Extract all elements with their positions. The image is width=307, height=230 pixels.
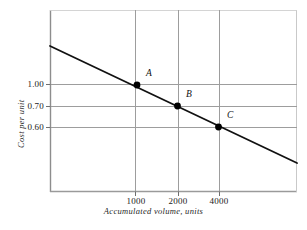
- chart-figure: 1.00 0.70 0.60 1000 2000 4000 Cost per u…: [0, 0, 307, 230]
- x-tick-label-1: 1000: [116, 196, 156, 206]
- learning-curve-line: [50, 46, 297, 163]
- y-axis-title: Cost per unit: [16, 100, 26, 148]
- data-point-c: [215, 124, 222, 131]
- y-tick-label-1: 1.00: [18, 79, 44, 89]
- x-tick-label-2: 2000: [158, 196, 198, 206]
- x-axis-title: Accumulated volume, units: [0, 206, 307, 216]
- point-label-c: C: [227, 110, 233, 120]
- point-label-a: A: [146, 68, 152, 78]
- point-label-b: B: [186, 89, 192, 99]
- data-point-a: [134, 82, 141, 89]
- x-tick-label-3: 4000: [199, 196, 239, 206]
- data-point-b: [174, 103, 181, 110]
